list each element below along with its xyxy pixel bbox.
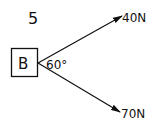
body-label: B	[18, 55, 28, 73]
problem-number: 5	[28, 9, 38, 28]
force-diagram: 5 B 60° 40N 70N	[0, 0, 157, 123]
force-arrow-40n	[38, 16, 122, 63]
angle-label: 60°	[46, 58, 67, 72]
force-label-40n: 40N	[122, 11, 146, 25]
force-label-70n: 70N	[121, 107, 145, 121]
